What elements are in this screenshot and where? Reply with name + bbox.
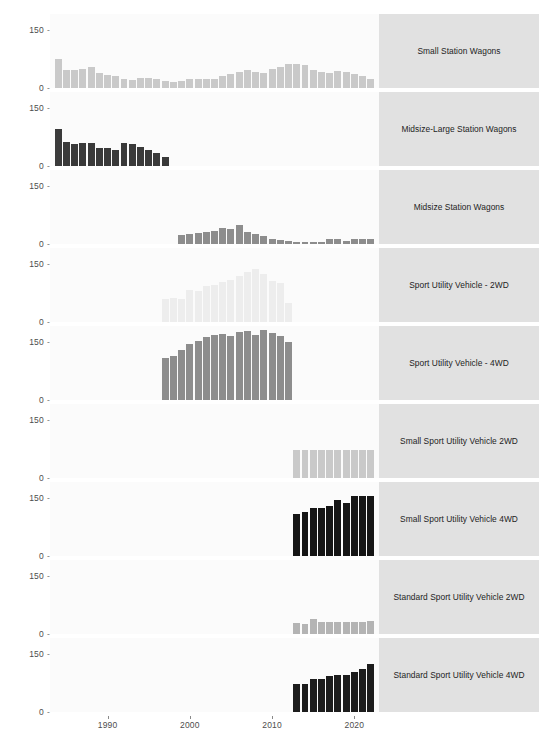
bar bbox=[227, 280, 234, 322]
bar bbox=[112, 150, 119, 166]
bar bbox=[236, 332, 243, 400]
bar bbox=[302, 450, 309, 478]
bar bbox=[88, 67, 95, 88]
x-axis-left-spacer bbox=[8, 716, 50, 732]
y-axis-tick-label: 150- bbox=[29, 337, 50, 347]
bar bbox=[219, 334, 226, 400]
x-axis-tick-label: 2000 bbox=[180, 720, 200, 730]
bar bbox=[318, 622, 325, 634]
bar bbox=[293, 450, 300, 478]
bar bbox=[79, 143, 86, 166]
facet-strip-label: Sport Utility Vehicle - 2WD bbox=[379, 248, 539, 322]
bar bbox=[162, 157, 169, 166]
bar bbox=[170, 298, 177, 322]
bar bbox=[63, 70, 70, 88]
bar bbox=[310, 242, 317, 244]
bar bbox=[269, 239, 276, 244]
bar bbox=[79, 69, 86, 88]
bar bbox=[310, 508, 317, 556]
bar bbox=[211, 335, 218, 400]
facet-row: 0-150-Small Sport Utility Vehicle 4WD bbox=[8, 482, 539, 556]
bar bbox=[310, 619, 317, 634]
bar bbox=[153, 153, 160, 166]
facet-strip-label: Small Sport Utility Vehicle 2WD bbox=[379, 404, 539, 478]
bar bbox=[359, 450, 366, 478]
facet-panel bbox=[50, 170, 379, 244]
y-axis-tick-label: 150- bbox=[29, 415, 50, 425]
bar bbox=[293, 623, 300, 634]
y-axis: 0-150- bbox=[8, 92, 50, 166]
bar bbox=[334, 622, 341, 634]
bar bbox=[186, 290, 193, 322]
bar bbox=[334, 675, 341, 712]
bar bbox=[162, 358, 169, 400]
bar bbox=[71, 144, 78, 166]
x-axis-tick-mark bbox=[190, 716, 191, 719]
y-axis-tick-label: 150- bbox=[29, 571, 50, 581]
bar bbox=[129, 80, 136, 88]
y-axis: 0-150- bbox=[8, 638, 50, 712]
facet-row: 0-150-Small Station Wagons bbox=[8, 14, 539, 88]
bar bbox=[359, 76, 366, 88]
bar bbox=[145, 78, 152, 88]
bar bbox=[244, 331, 251, 400]
bar bbox=[178, 350, 185, 400]
facet-strip-label: Sport Utility Vehicle - 4WD bbox=[379, 326, 539, 400]
bar bbox=[293, 514, 300, 556]
bar bbox=[195, 341, 202, 400]
x-axis-tick-mark bbox=[272, 716, 273, 719]
bar bbox=[293, 64, 300, 88]
bar bbox=[318, 242, 325, 244]
bar bbox=[367, 239, 374, 244]
x-axis-tick-label: 2010 bbox=[262, 720, 282, 730]
y-axis-tick-label: 150- bbox=[29, 103, 50, 113]
y-axis-tick-label: 150- bbox=[29, 25, 50, 35]
facet-row: 0-150-Midsize Station Wagons bbox=[8, 170, 539, 244]
bar bbox=[96, 148, 103, 166]
bar bbox=[203, 337, 210, 400]
bar bbox=[302, 512, 309, 556]
bar bbox=[186, 234, 193, 244]
x-axis-tick-mark bbox=[108, 716, 109, 719]
bar bbox=[162, 81, 169, 88]
y-axis: 0-150- bbox=[8, 482, 50, 556]
bar bbox=[88, 143, 95, 166]
bar bbox=[219, 76, 226, 88]
bar bbox=[359, 622, 366, 634]
bar bbox=[351, 622, 358, 634]
bar bbox=[137, 78, 144, 88]
facet-panel bbox=[50, 482, 379, 556]
facet-row: 0-150-Standard Sport Utility Vehicle 2WD bbox=[8, 560, 539, 634]
bar bbox=[178, 81, 185, 88]
bar bbox=[351, 496, 358, 556]
bar bbox=[153, 79, 160, 88]
bar bbox=[170, 82, 177, 88]
plot-area bbox=[50, 482, 379, 556]
bar bbox=[219, 282, 226, 322]
bar bbox=[178, 235, 185, 244]
y-axis-tick-label: 150- bbox=[29, 649, 50, 659]
y-axis: 0-150- bbox=[8, 326, 50, 400]
bar bbox=[285, 342, 292, 400]
facet-strip-label: Small Station Wagons bbox=[379, 14, 539, 88]
bar bbox=[203, 286, 210, 322]
bar bbox=[326, 622, 333, 634]
bar bbox=[211, 285, 218, 322]
facet-panel bbox=[50, 326, 379, 400]
bar bbox=[236, 225, 243, 244]
bar bbox=[63, 142, 70, 166]
bar bbox=[334, 71, 341, 88]
bar bbox=[104, 148, 111, 166]
bar bbox=[326, 506, 333, 556]
bar bbox=[186, 344, 193, 400]
bar bbox=[137, 147, 144, 166]
x-axis-right-spacer bbox=[379, 716, 539, 732]
bar bbox=[318, 72, 325, 88]
bar bbox=[195, 233, 202, 244]
bar bbox=[121, 79, 128, 88]
bar bbox=[293, 684, 300, 712]
bar bbox=[285, 64, 292, 88]
facet-row: 0-150-Midsize-Large Station Wagons bbox=[8, 92, 539, 166]
bar bbox=[244, 70, 251, 88]
